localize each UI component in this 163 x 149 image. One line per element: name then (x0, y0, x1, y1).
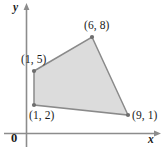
x-axis-label: x (148, 134, 154, 146)
vertex-point-1-5 (32, 69, 36, 73)
vertex-label-1-2: (1, 2) (29, 110, 55, 122)
y-axis-arrow-icon (24, 3, 30, 10)
quadrilateral-region (34, 37, 128, 115)
coordinate-plane-graphic (0, 0, 163, 149)
vertex-point-9-1 (126, 113, 130, 117)
x-axis-arrow-icon (154, 131, 161, 137)
vertex-label-9-1: (9, 1) (132, 110, 158, 122)
y-axis-label: y (13, 2, 18, 14)
vertex-label-6-8: (6, 8) (84, 20, 110, 32)
origin-label: 0 (11, 132, 17, 145)
vertex-label-1-5: (1, 5) (21, 54, 47, 66)
vertex-point-1-2 (32, 103, 36, 107)
vertex-point-6-8 (90, 35, 94, 39)
figure-container: y x 0 (1, 5) (6, 8) (9, 1) (1, 2) (0, 0, 163, 149)
